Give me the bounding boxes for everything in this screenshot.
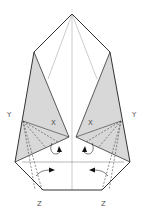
label-x-right: X [88, 119, 93, 127]
left-fold-arrow [36, 170, 51, 176]
label-x-left: X [51, 119, 56, 127]
left-curl-arrowhead-icon [57, 146, 62, 152]
label-y-right: Y [131, 111, 137, 119]
label-y-left: Y [6, 111, 12, 119]
right-fold-arrow [93, 170, 108, 176]
right-curl-arrowhead-icon [82, 146, 87, 152]
label-z-left: Z [37, 200, 42, 208]
left-fold-arrowhead-icon [49, 168, 55, 173]
origami-diagram: Y Y X X Z Z [0, 0, 144, 216]
right-crease [72, 14, 97, 79]
right-fold-arrowhead-icon [89, 168, 95, 173]
left-shaded-flap [15, 52, 69, 162]
left-crease [48, 14, 72, 79]
label-z-right: Z [101, 200, 106, 208]
